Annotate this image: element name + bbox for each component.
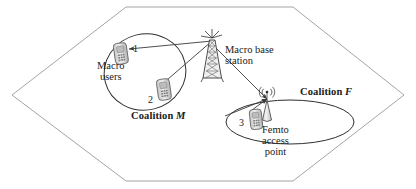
macro-bs-line2: station <box>225 55 274 66</box>
coalition-m-symbol: M <box>176 110 185 121</box>
femto-access-point-label: Femto access point <box>262 124 289 157</box>
femto-line1: Femto <box>262 124 289 135</box>
node-label-1: 1 <box>133 44 138 55</box>
femto-line2: access <box>262 135 289 146</box>
coalition-f-ellipse <box>226 100 354 144</box>
macro-base-station-label: Macro base station <box>225 44 274 66</box>
macro-base-station-icon <box>201 29 224 82</box>
femto-line3: point <box>262 146 289 157</box>
node-label-2: 2 <box>148 95 153 106</box>
node-label-3: 3 <box>239 118 244 129</box>
macro-users-line1: Macro <box>97 60 124 71</box>
diagram-canvas: Macro users Macro base station Femto acc… <box>0 0 416 189</box>
macro-bs-line1: Macro base <box>225 44 274 55</box>
coalition-m-label: Coalition M <box>131 110 186 121</box>
mobile-phone-icon-2 <box>156 78 172 101</box>
coalition-m-word: Coalition <box>131 110 173 121</box>
macro-users-line2: users <box>97 71 124 82</box>
link-bs-to-user1 <box>129 41 212 49</box>
macro-users-label: Macro users <box>97 60 124 82</box>
mobile-phone-icon-3 <box>249 109 263 130</box>
coalition-f-label: Coalition F <box>300 86 352 97</box>
coalition-f-word: Coalition <box>300 86 342 97</box>
coalition-f-symbol: F <box>345 86 352 97</box>
diagram-vector-layer <box>0 0 416 189</box>
